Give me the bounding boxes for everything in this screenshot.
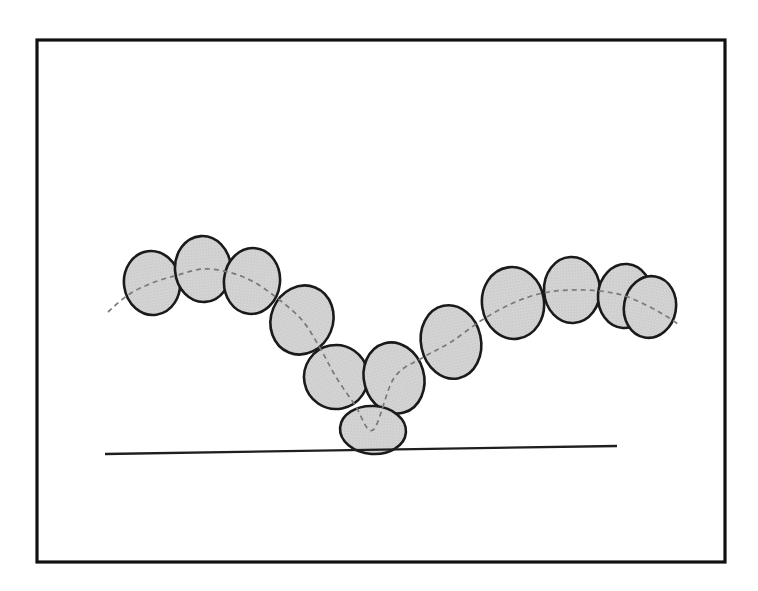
ellipse-chain-diagram [0, 0, 758, 591]
figure-root [0, 0, 758, 591]
